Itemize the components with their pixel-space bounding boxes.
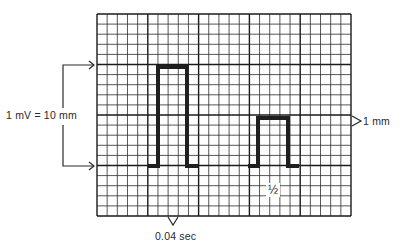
time-marker [168, 217, 178, 225]
chevron-right-icon [352, 116, 361, 126]
half-standard-label: ½ [266, 183, 280, 197]
time-label: 0.04 sec [155, 230, 196, 242]
full-standard-pulse [148, 67, 198, 166]
one-mm-marker [352, 116, 361, 126]
amplitude-label: 1 mV = 10 mm [4, 109, 79, 121]
chevron-down-icon [168, 217, 178, 225]
one-mm-label: 1 mm [363, 115, 390, 127]
ecg-grid-paper [97, 14, 351, 216]
ecg-calibration-figure [0, 0, 405, 249]
